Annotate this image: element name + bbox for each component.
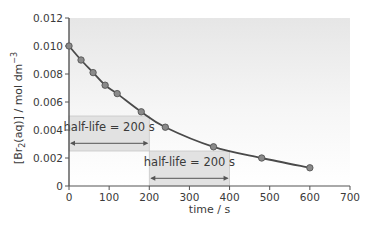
y-tick-label: 0: [56, 180, 63, 192]
x-tick-label: 500: [260, 191, 280, 203]
x-tick-label: 300: [179, 191, 199, 203]
x-axis-title: time / s: [189, 203, 231, 216]
half-life-annotation: half-life = 200 s: [64, 116, 155, 151]
y-tick-label: 0.002: [33, 152, 63, 164]
chart: half-life = 200 shalf-life = 200 s 00.00…: [0, 0, 367, 226]
data-point-marker: [78, 57, 84, 63]
x-tick-label: 0: [66, 191, 73, 203]
data-point-marker: [138, 109, 144, 115]
data-point-marker: [307, 165, 313, 171]
half-life-label: half-life = 200 s: [144, 155, 235, 169]
chart-svg: half-life = 200 shalf-life = 200 s 00.00…: [0, 0, 367, 226]
y-axis-title: [Br2(aq)] / mol dm−3: [10, 52, 27, 164]
data-point-marker: [162, 124, 168, 130]
data-point-marker: [114, 90, 120, 96]
x-tick-label: 200: [139, 191, 159, 203]
half-life-label: half-life = 200 s: [64, 120, 155, 134]
data-point-marker: [66, 43, 72, 49]
data-point-marker: [210, 144, 216, 150]
data-point-marker: [90, 69, 96, 75]
data-point-marker: [102, 82, 108, 88]
y-tick-label: 0.010: [33, 40, 63, 52]
half-life-annotation: half-life = 200 s: [144, 151, 235, 186]
x-tick-label: 700: [340, 191, 360, 203]
data-point-marker: [258, 155, 264, 161]
x-tick-label: 100: [99, 191, 119, 203]
y-tick-label: 0.012: [33, 12, 63, 24]
y-tick-label: 0.006: [33, 96, 63, 108]
y-tick-label: 0.008: [33, 68, 63, 80]
x-tick-label: 600: [300, 191, 320, 203]
y-tick-label: 0.004: [33, 124, 63, 136]
x-tick-label: 400: [220, 191, 240, 203]
